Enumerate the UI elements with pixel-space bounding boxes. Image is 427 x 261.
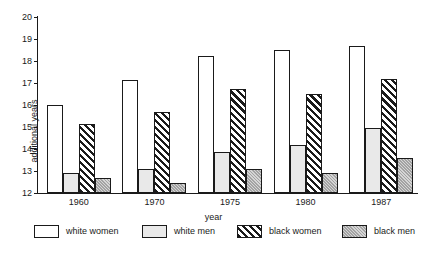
- bar[interactable]: [63, 173, 79, 193]
- bar[interactable]: [381, 79, 397, 193]
- bar[interactable]: [214, 152, 230, 193]
- y-axis-tick-mark: [34, 17, 38, 18]
- y-axis-tick-mark: [34, 127, 38, 128]
- legend-label: white men: [174, 226, 215, 236]
- x-axis-tick-label: 1987: [349, 197, 413, 207]
- y-axis-tick-mark: [34, 171, 38, 172]
- y-axis-tick-mark: [34, 193, 38, 194]
- bar[interactable]: [322, 173, 338, 193]
- bar-group: 1975: [198, 17, 262, 193]
- y-axis-tick-label: 17: [22, 78, 32, 88]
- y-axis-tick-mark: [34, 149, 38, 150]
- bar[interactable]: [230, 89, 246, 194]
- bar[interactable]: [79, 124, 95, 193]
- bar[interactable]: [349, 46, 365, 193]
- bar-group-bars: [122, 17, 186, 193]
- y-axis-tick-mark: [34, 39, 38, 40]
- chart-figure: additional years 121314151617181920 1960…: [0, 0, 427, 261]
- y-axis-tick-mark: [34, 83, 38, 84]
- bar[interactable]: [47, 105, 63, 193]
- bar[interactable]: [95, 178, 111, 193]
- y-axis-tick-label: 13: [22, 166, 32, 176]
- legend-label: black men: [374, 226, 415, 236]
- bar[interactable]: [290, 145, 306, 193]
- plot-area: 121314151617181920 19601970197519801987: [38, 17, 416, 193]
- legend-item[interactable]: white men: [142, 225, 215, 238]
- legend-label: black women: [269, 226, 322, 236]
- bar[interactable]: [170, 183, 186, 193]
- bar-group-bars: [198, 17, 262, 193]
- bar-group-bars: [274, 17, 338, 193]
- bar[interactable]: [397, 158, 413, 193]
- y-axis-tick-label: 14: [22, 144, 32, 154]
- legend-swatch: [142, 225, 167, 238]
- legend-swatch: [342, 225, 367, 238]
- legend-item[interactable]: black women: [237, 225, 322, 238]
- y-axis-tick-label: 15: [22, 122, 32, 132]
- bar[interactable]: [122, 80, 138, 193]
- bar[interactable]: [306, 94, 322, 193]
- y-axis-tick-mark: [34, 61, 38, 62]
- legend-swatch: [34, 225, 59, 238]
- bar-group-bars: [47, 17, 111, 193]
- y-axis-tick-label: 12: [22, 188, 32, 198]
- legend-swatch: [237, 225, 262, 238]
- y-axis-tick-label: 16: [22, 100, 32, 110]
- x-axis-tick-label: 1960: [47, 197, 111, 207]
- x-axis-tick-label: 1975: [198, 197, 262, 207]
- x-axis-line: [37, 193, 418, 194]
- bar[interactable]: [138, 169, 154, 193]
- bar[interactable]: [154, 112, 170, 193]
- bar-group: 1960: [47, 17, 111, 193]
- bar[interactable]: [198, 56, 214, 194]
- bar-group: 1987: [349, 17, 413, 193]
- bar-group-bars: [349, 17, 413, 193]
- legend-item[interactable]: black men: [342, 225, 415, 238]
- bar[interactable]: [274, 50, 290, 193]
- x-axis-tick-label: 1970: [122, 197, 186, 207]
- x-axis-label: year: [0, 212, 427, 222]
- y-axis-tick-label: 18: [22, 56, 32, 66]
- legend-item[interactable]: white women: [34, 225, 119, 238]
- bar-group: 1980: [274, 17, 338, 193]
- x-axis-tick-label: 1980: [274, 197, 338, 207]
- y-axis-tick-label: 20: [22, 12, 32, 22]
- bar[interactable]: [365, 128, 381, 193]
- bar[interactable]: [246, 169, 262, 193]
- legend-label: white women: [66, 226, 119, 236]
- bar-group: 1970: [122, 17, 186, 193]
- y-axis-tick-label: 19: [22, 34, 32, 44]
- y-axis-tick-mark: [34, 105, 38, 106]
